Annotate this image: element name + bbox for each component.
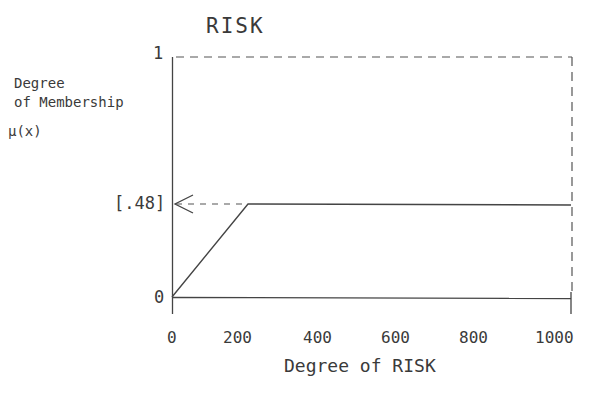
x-axis	[172, 298, 571, 299]
plot-area	[0, 0, 598, 394]
membership-function-line	[172, 204, 571, 297]
